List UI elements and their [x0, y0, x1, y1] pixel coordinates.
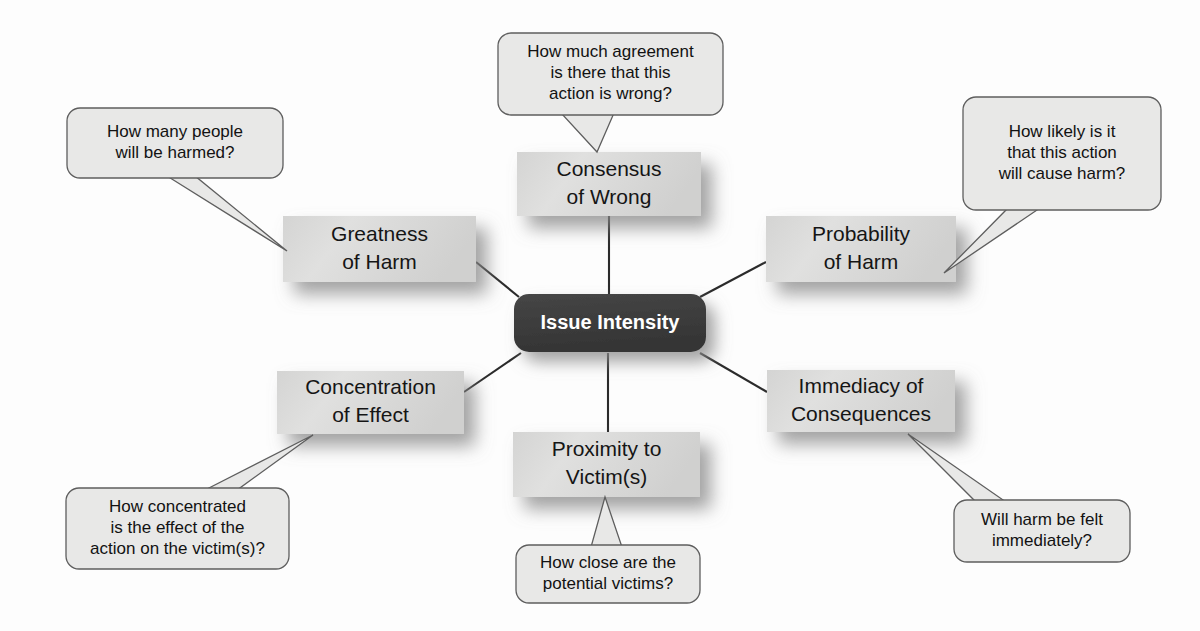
node-concentration-of-effect[interactable]: Concentrationof Effect — [277, 371, 464, 434]
callout-probability-line-1: How likely is it — [1009, 122, 1116, 141]
callout-greatness[interactable]: How many peoplewill be harmed? — [67, 108, 287, 251]
callout-consensus-tail — [561, 113, 614, 152]
callout-consensus[interactable]: How much agreementis there that thisacti… — [498, 33, 723, 152]
callout-proximity-line-2: potential victims? — [543, 574, 673, 593]
node-immediacy-of-consequences[interactable]: Immediacy ofConsequences — [767, 370, 955, 432]
center-node[interactable]: Issue Intensity — [514, 294, 706, 352]
callout-proximity-tail — [591, 497, 622, 547]
callout-immediacy-tail — [908, 434, 1006, 502]
issue-intensity-diagram: Consensusof WrongGreatnessof HarmProbabi… — [0, 0, 1200, 631]
callout-proximity-line-1: How close are the — [540, 553, 676, 572]
callout-consensus-line-1: How much agreement — [527, 42, 694, 61]
node-label-line1-concentration-of-effect: Concentration — [305, 375, 436, 398]
node-label-line2-greatness-of-harm: of Harm — [342, 250, 417, 273]
connector-greatness-of-harm — [476, 262, 519, 297]
center-node-label: Issue Intensity — [541, 311, 681, 333]
node-probability-of-harm[interactable]: Probabilityof Harm — [766, 216, 956, 282]
callout-concentration-line-2: is the effect of the — [111, 518, 245, 537]
node-label-line2-probability-of-harm: of Harm — [824, 250, 899, 273]
diagram-canvas: Consensusof WrongGreatnessof HarmProbabi… — [0, 0, 1200, 631]
node-proximity-to-victims[interactable]: Proximity toVictim(s) — [513, 432, 700, 497]
callout-immediacy[interactable]: Will harm be feltimmediately? — [908, 434, 1130, 562]
callout-concentration[interactable]: How concentratedis the effect of theacti… — [66, 435, 313, 569]
node-label-line1-immediacy-of-consequences: Immediacy of — [799, 374, 924, 397]
callout-concentration-tail — [205, 435, 313, 490]
callout-probability[interactable]: How likely is itthat this actionwill cau… — [944, 97, 1161, 273]
node-label-line1-consensus-of-wrong: Consensus — [556, 157, 661, 180]
callout-greatness-line-2: will be harmed? — [114, 143, 234, 162]
callout-consensus-line-2: is there that this — [550, 63, 670, 82]
node-label-line1-probability-of-harm: Probability — [812, 222, 911, 245]
node-label-line1-greatness-of-harm: Greatness — [331, 222, 428, 245]
callout-probability-line-3: will cause harm? — [998, 164, 1126, 183]
connector-concentration-of-effect — [464, 353, 521, 392]
callout-concentration-line-3: action on the victim(s)? — [90, 539, 265, 558]
callout-immediacy-line-1: Will harm be felt — [981, 510, 1103, 529]
callout-greatness-tail — [167, 176, 287, 251]
node-label-line2-concentration-of-effect: of Effect — [332, 403, 409, 426]
callout-proximity[interactable]: How close are thepotential victims? — [516, 497, 700, 603]
callout-probability-line-2: that this action — [1007, 143, 1117, 162]
callout-consensus-line-3: action is wrong? — [549, 84, 672, 103]
center-node-group: Issue Intensity — [514, 294, 706, 352]
connector-probability-of-harm — [700, 262, 766, 297]
node-label-line2-proximity-to-victims: Victim(s) — [566, 465, 647, 488]
node-greatness-of-harm[interactable]: Greatnessof Harm — [283, 216, 476, 282]
callout-probability-tail — [944, 208, 1040, 273]
node-label-line2-immediacy-of-consequences: Consequences — [791, 402, 931, 425]
node-label-line2-consensus-of-wrong: of Wrong — [567, 185, 652, 208]
node-consensus-of-wrong[interactable]: Consensusof Wrong — [517, 152, 701, 216]
callout-immediacy-line-2: immediately? — [992, 531, 1092, 550]
node-label-line1-proximity-to-victims: Proximity to — [552, 437, 662, 460]
callout-greatness-line-1: How many people — [107, 122, 243, 141]
connector-immediacy-of-consequences — [700, 353, 767, 392]
callout-concentration-line-1: How concentrated — [109, 497, 246, 516]
